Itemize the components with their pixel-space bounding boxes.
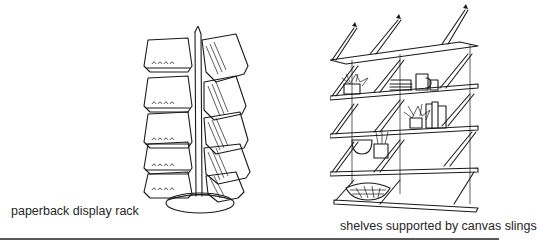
page-divider-rule bbox=[0, 238, 499, 240]
sling-shelves-illustration bbox=[330, 4, 480, 214]
rack-drawing-icon bbox=[140, 26, 255, 218]
shelves-caption: shelves supported by canvas slings bbox=[340, 219, 537, 233]
rack-caption: paperback display rack bbox=[11, 204, 139, 218]
paperback-rack-illustration bbox=[140, 26, 255, 218]
shelves-drawing-icon bbox=[330, 4, 480, 214]
